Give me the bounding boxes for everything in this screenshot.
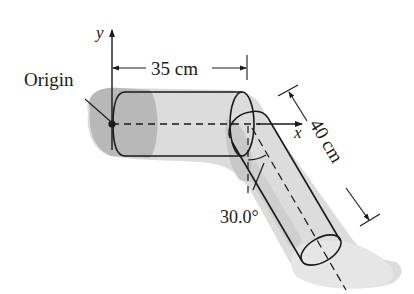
upper-length-label: 35 cm	[151, 58, 198, 79]
dim-40-top-tick	[278, 85, 298, 96]
origin-dot	[108, 120, 115, 127]
y-axis-label: y	[94, 23, 104, 42]
angle-label: 30.0°	[220, 207, 259, 227]
origin-label: Origin	[24, 69, 74, 90]
x-axis-label: x	[293, 123, 302, 142]
lower-length-label: 40 cm	[306, 115, 348, 166]
leg-cylinder-diagram: Origin y x 35 cm 40 cm 30.0°	[0, 0, 414, 294]
dim-40-upper-arrow	[289, 92, 307, 121]
dim-40-bottom-tick	[360, 214, 380, 226]
leg-silhouette	[87, 88, 401, 289]
dim-40-lower-arrow	[346, 188, 369, 220]
hip-shadow	[89, 88, 157, 158]
